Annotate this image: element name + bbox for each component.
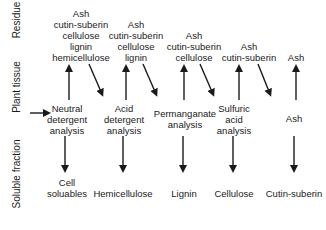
col2-analysis: Acid detergent analysis xyxy=(104,103,144,136)
col3-residue: Ash cutin-suberin cellulose xyxy=(167,30,221,63)
col1-soluble: Cell soluables xyxy=(47,177,87,199)
col4-soluble: Cellulose xyxy=(214,188,253,199)
col5-soluble: Cutin-suberin xyxy=(266,188,323,199)
col1-analysis: Neutral detergent analysis xyxy=(47,103,87,136)
col3-analysis: Permanganate analysis xyxy=(154,108,216,130)
col5-analysis: Ash xyxy=(286,113,302,124)
col2-residue: Ash cutin-suberin cellulose lignin xyxy=(109,19,163,63)
col1-residue: Ash cutin-suberin cellulose lignin hemic… xyxy=(52,8,110,63)
col4-residue: Ash cutin-suberin xyxy=(222,41,276,63)
col4-diag-arrow xyxy=(258,64,270,94)
col1-diag-arrow xyxy=(89,64,102,94)
col2-soluble: Hemicellulose xyxy=(93,188,152,199)
col4-analysis: Sulfuric acid analysis xyxy=(217,103,251,136)
col5-residue: Ash xyxy=(288,52,304,63)
col2-diag-arrow xyxy=(143,64,156,94)
col3-soluble: Lignin xyxy=(171,188,196,199)
col3-diag-arrow xyxy=(200,64,213,94)
